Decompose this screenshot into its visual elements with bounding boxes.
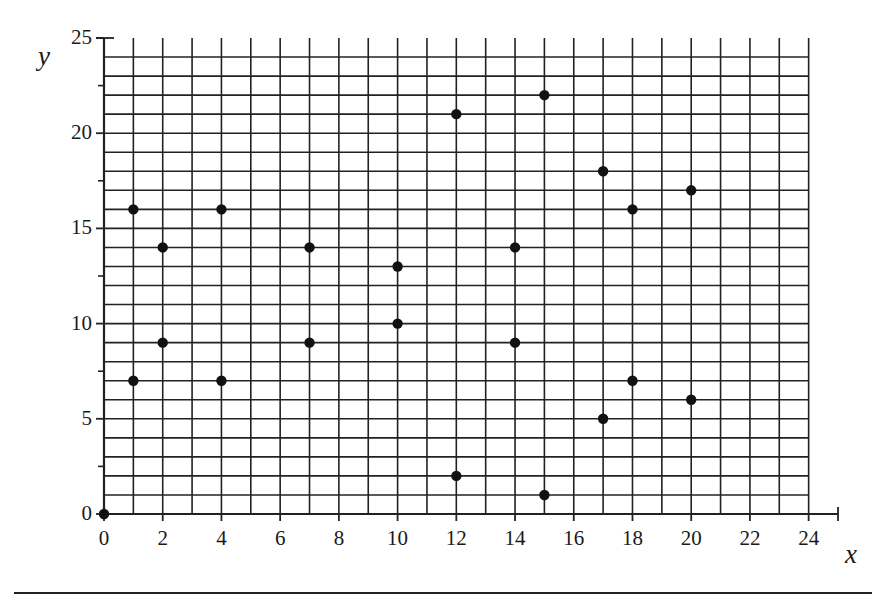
x-tick-label: 4: [196, 528, 246, 549]
data-point: [128, 376, 138, 386]
data-point: [451, 109, 461, 119]
axis-ticks: [96, 38, 838, 521]
x-tick-label: 12: [431, 528, 481, 549]
data-point: [158, 242, 168, 252]
x-tick-label: 18: [607, 528, 657, 549]
data-point: [539, 90, 549, 100]
y-tick-label: 5: [50, 408, 92, 429]
y-axis-label: y: [38, 43, 50, 70]
axis-lines: [104, 38, 838, 514]
y-tick-label: 0: [50, 503, 92, 524]
x-axis-label: x: [845, 541, 857, 568]
data-point: [392, 261, 402, 271]
x-tick-label: 20: [666, 528, 716, 549]
x-tick-label: 14: [490, 528, 540, 549]
data-point: [304, 337, 314, 347]
data-point: [627, 204, 637, 214]
x-tick-label: 24: [784, 528, 834, 549]
data-point: [510, 337, 520, 347]
data-point: [128, 204, 138, 214]
data-point: [158, 337, 168, 347]
data-point: [216, 204, 226, 214]
y-tick-label: 20: [50, 122, 92, 143]
x-tick-label: 10: [373, 528, 423, 549]
x-tick-label: 22: [725, 528, 775, 549]
data-point: [598, 166, 608, 176]
plot-canvas: [0, 0, 886, 602]
scatter-plot-figure: 0510152025 024681012141618202224 y x: [0, 0, 886, 602]
bottom-divider-rule: [14, 592, 872, 594]
x-tick-label: 6: [255, 528, 305, 549]
data-point: [598, 414, 608, 424]
x-tick-label: 0: [79, 528, 129, 549]
x-tick-label: 16: [549, 528, 599, 549]
y-tick-label: 15: [50, 217, 92, 238]
data-point: [451, 471, 461, 481]
data-point: [510, 242, 520, 252]
data-point: [304, 242, 314, 252]
data-point: [216, 376, 226, 386]
y-tick-label: 25: [50, 27, 92, 48]
data-point: [686, 185, 696, 195]
data-point: [686, 395, 696, 405]
data-point: [99, 509, 109, 519]
data-point: [539, 490, 549, 500]
data-point: [627, 376, 637, 386]
data-point: [392, 318, 402, 328]
x-tick-label: 8: [314, 528, 364, 549]
x-tick-label: 2: [138, 528, 188, 549]
y-tick-label: 10: [50, 313, 92, 334]
